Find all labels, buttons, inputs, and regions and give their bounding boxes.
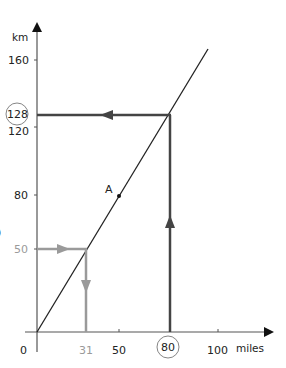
y-tick-80: 80 xyxy=(14,189,28,202)
y-axis-arrow-icon xyxy=(32,22,42,32)
point-a-label: A xyxy=(105,183,113,196)
conversion-graph: km 160 128 120 80 50 ) 0 31 50 80 100 mi… xyxy=(0,0,286,368)
y-tick-50: 50 xyxy=(14,243,28,256)
x-axis-arrow-icon xyxy=(264,327,274,337)
x-tick-50: 50 xyxy=(112,344,126,357)
x-tick-31: 31 xyxy=(79,344,93,357)
right-arrow-icon xyxy=(57,244,70,254)
origin-label: 0 xyxy=(20,344,27,357)
down-arrow-icon xyxy=(81,280,91,293)
x-tick-80: 80 xyxy=(161,341,175,354)
up-arrow-icon xyxy=(165,215,175,228)
edge-paren: ) xyxy=(0,226,1,239)
y-tick-128: 128 xyxy=(7,108,28,121)
point-a-marker xyxy=(117,194,121,198)
y-tick-120: 120 xyxy=(8,125,29,138)
conversion-line xyxy=(37,49,208,332)
left-arrow-icon xyxy=(100,110,113,120)
y-tick-160: 160 xyxy=(8,54,29,67)
x-tick-100: 100 xyxy=(207,344,228,357)
y-unit-label: km xyxy=(12,31,28,43)
x-unit-label: miles xyxy=(236,342,264,354)
